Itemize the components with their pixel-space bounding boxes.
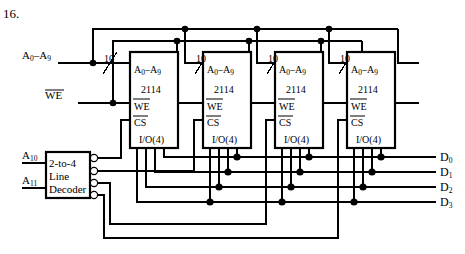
dot-io2-d3	[278, 198, 285, 205]
dot-io2-d1	[296, 168, 303, 175]
chip-1-cs-pin-label: CS	[207, 117, 219, 128]
dot-io1-d0	[233, 153, 240, 160]
line-decoder-block[interactable]: 2-to-4 Line Decoder	[46, 152, 98, 199]
memory-chip-3[interactable]: A0–A9 2114 WE CS I/O(4) 10	[340, 52, 395, 148]
chip-2-part-number: 2114	[286, 84, 306, 95]
io-route-chip-2	[282, 148, 309, 202]
dot-io3-d1	[368, 168, 375, 175]
dot-we-tap-0	[110, 100, 117, 107]
chip-2-we-pin-label: WE	[279, 101, 295, 112]
dot-addr-tap-2	[254, 26, 261, 33]
chip-0-io-pin-label: I/O(4)	[139, 134, 164, 146]
dot-io1-d1	[224, 168, 231, 175]
dot-io2-d2	[287, 183, 294, 190]
decoder-output-bubbles	[90, 154, 97, 198]
data-output-d2-label: D2	[440, 180, 453, 195]
address-bus-input-label: A0–A9	[22, 49, 51, 63]
chip-1-io-pin-label: I/O(4)	[212, 134, 237, 146]
dot-addr-tap-0	[90, 60, 97, 67]
chip-3-io-pin-label: I/O(4)	[356, 134, 381, 146]
decoder-label-line3: Decoder	[49, 183, 87, 195]
chip-0-cs-pin-label: CS	[134, 117, 146, 128]
io-route-chip-1	[210, 148, 237, 202]
chip-3-bus-width-label: 10	[340, 53, 350, 64]
dot-io1-d2	[215, 183, 222, 190]
cs-route-chip-0	[98, 120, 130, 158]
chip-0-we-pin-label: WE	[134, 101, 150, 112]
decoder-label-line1: 2-to-4	[49, 157, 76, 169]
dot-io3-d3	[350, 198, 357, 205]
io-route-chip-3	[354, 148, 381, 202]
chip-2-io-pin-label: I/O(4)	[284, 134, 309, 146]
data-output-d3-label: D3	[440, 195, 453, 210]
data-output-d1-label: D1	[440, 165, 453, 180]
chip-2-bus-width-label: 10	[268, 53, 278, 64]
figure-canvas: 16.	[0, 0, 465, 254]
dot-we-tap-2	[246, 38, 253, 45]
memory-chip-array: A0–A9 2114 WE CS I/O(4) 10 A0–A9 2114 WE…	[104, 52, 395, 148]
chip-3-cs-pin-label: CS	[351, 117, 363, 128]
chip-0-part-number: 2114	[141, 84, 161, 95]
dot-io1-d3	[206, 198, 213, 205]
write-enable-input-label: WE	[45, 89, 62, 101]
data-bus-output-lines	[419, 157, 436, 202]
chip-3-part-number: 2114	[358, 84, 378, 95]
memory-chip-2[interactable]: A0–A9 2114 WE CS I/O(4) 10	[268, 52, 323, 148]
dot-io3-d0	[377, 153, 384, 160]
dot-addr-tap-3	[326, 26, 333, 33]
memory-chip-0[interactable]: A0–A9 2114 WE CS I/O(4) 10	[104, 52, 178, 148]
question-number: 16.	[3, 6, 19, 21]
io-route-chip-0	[137, 148, 419, 202]
decoder-label-line2: Line	[49, 170, 69, 182]
decoder-input-a10-label: A10	[22, 149, 38, 163]
dot-io2-d0	[305, 153, 312, 160]
chip-1-we-pin-label: WE	[207, 101, 223, 112]
chip-1-part-number: 2114	[214, 84, 234, 95]
chip-3-we-pin-label: WE	[351, 101, 367, 112]
dot-addr-tap-1	[182, 26, 189, 33]
dot-we-tap-3	[318, 38, 325, 45]
decoder-input-a11-label: A11	[22, 174, 37, 188]
chip-2-cs-pin-label: CS	[279, 117, 291, 128]
dot-we-tap-1	[174, 38, 181, 45]
memory-expansion-circuit-diagram: 16.	[0, 0, 465, 254]
chip-0-bus-width-label: 10	[104, 53, 114, 64]
dot-io3-d2	[359, 183, 366, 190]
memory-chip-1[interactable]: A0–A9 2114 WE CS I/O(4) 10	[196, 52, 251, 148]
chip-1-bus-width-label: 10	[196, 53, 206, 64]
data-output-d0-label: D0	[440, 150, 453, 165]
